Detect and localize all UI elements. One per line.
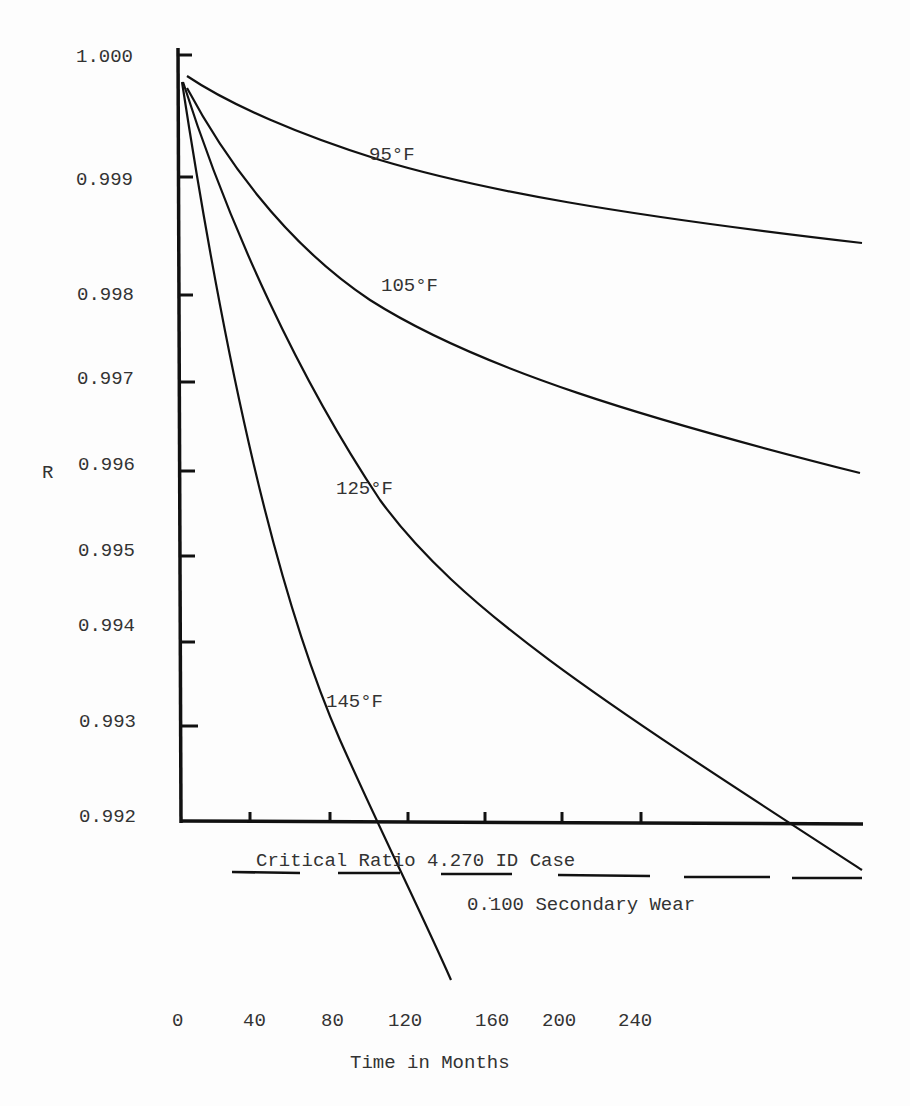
xtick-label: 40 xyxy=(243,1010,266,1032)
critical-ratio-label: Critical Ratio 4.270 ID Case xyxy=(256,850,575,872)
ytick-label: 0.992 xyxy=(79,806,136,828)
curve-105f xyxy=(187,88,860,473)
x-tick-labels: 0 40 80 120 160 200 240 xyxy=(172,1010,652,1032)
ytick-label: 0.995 xyxy=(78,540,135,562)
ytick-label: 0.997 xyxy=(77,368,134,390)
xtick-label: 200 xyxy=(542,1010,576,1032)
ytick-label: 0.998 xyxy=(77,284,134,306)
critical-ratio-dashed-line xyxy=(232,872,862,878)
xtick-label: 160 xyxy=(475,1010,509,1032)
curve-label-145f: 145°F xyxy=(326,691,383,713)
curve-label-95f: 95°F xyxy=(369,144,415,166)
ytick-label: 0.999 xyxy=(76,169,133,191)
ytick-label: 1.000 xyxy=(76,46,133,68)
y-tick-labels: 1.000 0.999 0.998 0.997 0.996 0.995 0.99… xyxy=(76,46,136,828)
xtick-label: 120 xyxy=(388,1010,422,1032)
x-axis xyxy=(181,821,863,824)
x-axis-title: Time in Months xyxy=(350,1052,510,1074)
curve-95f xyxy=(187,76,862,243)
y-axis-title: R xyxy=(42,462,53,484)
curve-145f xyxy=(182,82,451,980)
y-axis xyxy=(178,48,181,823)
xtick-label: 240 xyxy=(618,1010,652,1032)
secondary-wear-label: 0.̇100 Secondary Wear xyxy=(467,894,695,916)
curve-label-105f: 105°F xyxy=(381,275,438,297)
curve-125f xyxy=(183,82,862,870)
curve-label-125f: 125°F xyxy=(336,478,393,500)
reliability-chart: 1.000 0.999 0.998 0.997 0.996 0.995 0.99… xyxy=(0,0,910,1106)
ytick-label: 0.996 xyxy=(78,454,135,476)
ytick-label: 0.993 xyxy=(79,711,136,733)
xtick-label: 0 xyxy=(172,1010,183,1032)
xtick-label: 80 xyxy=(321,1010,344,1032)
ytick-label: 0.994 xyxy=(78,615,135,637)
